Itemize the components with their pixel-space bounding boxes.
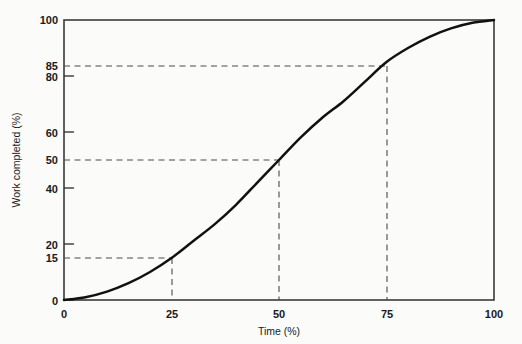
y-axis-tick-labels: 100 85 80 60 50 40 20 15 0: [40, 14, 58, 307]
x-tick-label-25: 25: [166, 308, 178, 320]
x-axis-tick-labels: 0 25 50 75 100: [61, 308, 503, 320]
figure-container: 100 85 80 60 50 40 20 15 0 0 25 50 75 10…: [0, 0, 522, 344]
y-tick-label-40: 40: [46, 183, 58, 195]
y-tick-label-15: 15: [46, 252, 58, 264]
y-tick-label-50: 50: [46, 154, 58, 166]
s-curve-chart: 100 85 80 60 50 40 20 15 0 0 25 50 75 10…: [0, 0, 522, 344]
guide-lines: [64, 66, 387, 300]
y-tick-label-80: 80: [46, 71, 58, 83]
y-axis-title: Work completed (%): [10, 113, 22, 208]
x-tick-label-50: 50: [273, 308, 285, 320]
y-tick-label-0: 0: [52, 295, 58, 307]
x-tick-label-75: 75: [381, 308, 393, 320]
y-tick-label-20: 20: [46, 239, 58, 251]
x-axis-title: Time (%): [258, 325, 300, 337]
y-axis-ticks: [64, 76, 74, 300]
x-tick-label-100: 100: [485, 308, 503, 320]
y-tick-label-60: 60: [46, 127, 58, 139]
y-tick-label-100: 100: [40, 14, 58, 26]
x-tick-label-0: 0: [61, 308, 67, 320]
